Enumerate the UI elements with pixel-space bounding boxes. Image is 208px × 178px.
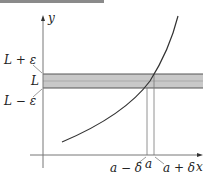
- label-L-minus-epsilon: L − ε: [3, 94, 36, 108]
- x-axis-arrow-icon: [197, 153, 203, 157]
- label-a-minus-delta: a − δ: [110, 161, 142, 175]
- x-axis-label: x: [196, 160, 203, 174]
- label-L: L: [30, 74, 39, 88]
- label-a: a: [145, 157, 152, 171]
- epsilon-delta-diagram: y x L + ε L L − ε a − δ a a + δ: [0, 0, 208, 178]
- label-a-plus-delta: a + δ: [163, 161, 195, 175]
- y-axis-arrow-icon: [41, 15, 45, 21]
- label-L-plus-epsilon: L + ε: [3, 53, 36, 67]
- y-axis-label: y: [47, 11, 55, 25]
